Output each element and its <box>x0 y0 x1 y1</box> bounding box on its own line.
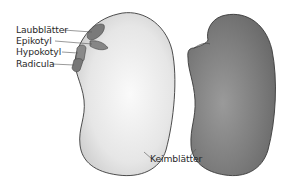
bean-seed-diagram: Laubblätter Epikotyl Hypokotyl Radicula … <box>0 0 295 179</box>
label-keimblaetter: Keimblätter <box>150 154 202 164</box>
leader-radicula <box>52 64 74 65</box>
label-epikotyl: Epikotyl <box>16 36 52 46</box>
label-radicula: Radicula <box>16 59 54 69</box>
leader-hypokotyl <box>62 52 78 53</box>
label-laubblaetter: Laubblätter <box>16 25 68 35</box>
label-hypokotyl: Hypokotyl <box>16 47 61 57</box>
closed-seed <box>188 14 276 175</box>
